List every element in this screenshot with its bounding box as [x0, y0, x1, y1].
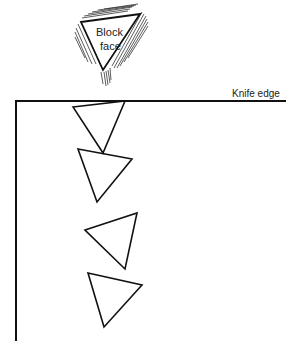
- section-triangle-4: [88, 273, 142, 327]
- knife-edge-label: Knife edge: [232, 88, 280, 99]
- block-face: Block face: [75, 4, 148, 86]
- knife-edge-sectioning-diagram: Block face Knife edge: [0, 0, 292, 354]
- section-triangle-1: [73, 101, 125, 153]
- block-face-label-line1: Block: [96, 26, 123, 38]
- sections-ribbon: [73, 101, 142, 327]
- section-triangle-3: [85, 213, 137, 269]
- knife-edge: Knife edge: [15, 88, 286, 341]
- block-face-label-line2: face: [100, 40, 121, 52]
- section-triangle-2: [78, 149, 132, 202]
